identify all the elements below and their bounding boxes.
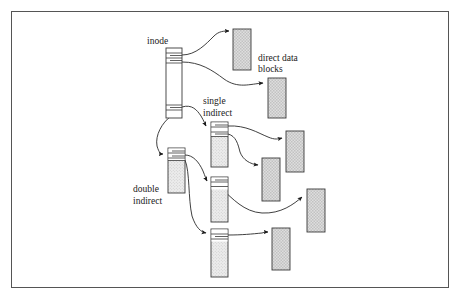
double-indirect-label-line2: indirect [133, 196, 162, 206]
data-block-2 [268, 78, 286, 118]
double-indirect-header [169, 149, 185, 161]
double-indirect-child-block-1-header [212, 178, 228, 190]
data-block-6 [272, 228, 290, 270]
figure-frame [12, 12, 449, 288]
data-block-5 [307, 189, 325, 232]
single-indirect-block [211, 122, 228, 167]
double-indirect-child-block-1 [211, 177, 228, 222]
single-indirect-label-line1: single [203, 96, 226, 106]
direct-data-blocks-label-line2: blocks [258, 64, 283, 74]
data-block-1 [233, 29, 251, 70]
inode-label: inode [147, 36, 168, 46]
direct-data-blocks-label-line1: direct data [258, 53, 299, 63]
inode-block [166, 48, 182, 118]
single-indirect-label-line2: indirect [203, 108, 232, 118]
inode-diagram: inode direct data blocks single indirect… [0, 0, 461, 299]
double-indirect-label-line1: double [133, 184, 159, 194]
double-indirect-child-block-2 [211, 229, 228, 277]
diagram-page: inode direct data blocks single indirect… [0, 0, 461, 299]
data-block-3 [286, 131, 304, 172]
data-block-4 [262, 158, 280, 201]
double-indirect-child-block-2-header [212, 230, 228, 242]
double-indirect-block [168, 148, 185, 193]
